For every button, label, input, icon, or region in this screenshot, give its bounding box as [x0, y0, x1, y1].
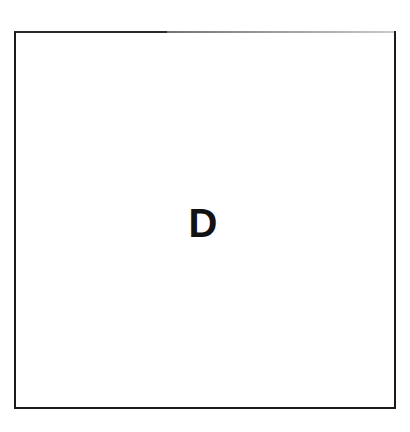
panel-outline-box: D	[14, 31, 396, 409]
panel-label: D	[16, 33, 394, 407]
figure-canvas: D	[0, 0, 410, 432]
